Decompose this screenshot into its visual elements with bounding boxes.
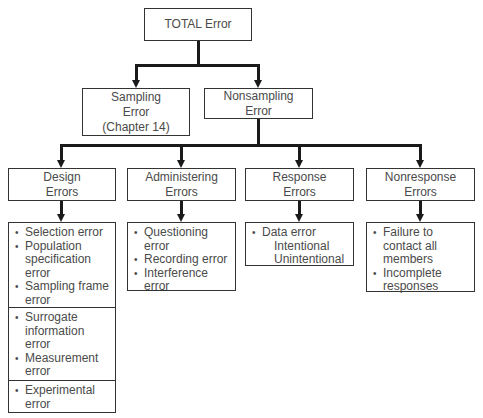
arrow-administering-detail-icon [177,214,185,222]
arrow-design-detail-icon [57,214,65,222]
nonresponse-section: Failure to contact all members Incomplet… [367,223,474,297]
sampling-line-2: Error [123,105,150,120]
list-item: Selection error [15,226,111,240]
list-item: Interference error [134,267,231,294]
total-error-box: TOTAL Error [144,8,252,41]
arrow-to-response-icon [295,160,303,168]
arrow-to-nonresponse-icon [416,160,424,168]
arrow-nonresponse-detail-icon [416,214,424,222]
connector-total-down [197,40,200,65]
response-errors-detail: Data error Intentional Unintentional [245,222,354,266]
nonresponse-errors-box: Nonresponse Errors [366,168,475,201]
design-section-1: Selection error Population specification… [9,223,115,308]
list-item: Data error [252,226,349,240]
list-item: Questioning error [134,226,231,253]
sampling-line-1: Sampling [111,90,161,105]
sub-item: Intentional [252,240,349,254]
connector-to-sampling [135,64,138,80]
response-section: Data error Intentional Unintentional [246,223,353,270]
arrow-to-design-icon [57,160,65,168]
nonresponse-line-1: Nonresponse [385,170,456,185]
sampling-error-box: Sampling Error (Chapter 14) [82,88,190,136]
connector-administering-detail [180,200,183,214]
connector-level1-bar [135,64,260,67]
nonresponse-line-2: Errors [404,185,437,200]
administering-errors-box: Administering Errors [127,168,236,201]
nonsampling-error-box: Nonsampling Error [204,88,313,119]
administering-errors-detail: Questioning error Recording error Interf… [127,222,236,291]
design-section-2: Surrogate information error Measurement … [9,308,115,381]
list-item: Recording error [134,253,231,267]
nonresponse-errors-detail: Failure to contact all members Incomplet… [366,222,475,292]
response-line-1: Response [272,170,326,185]
design-errors-box: Design Errors [8,168,116,201]
connector-to-administering [180,144,183,160]
connector-to-response [298,144,301,160]
administering-line-2: Errors [165,185,198,200]
connector-to-nonresponse [419,144,422,160]
connector-to-nonsampling [257,64,260,80]
sampling-line-3: (Chapter 14) [102,120,169,135]
connector-design-detail [60,200,63,214]
connector-response-detail [298,200,301,214]
response-line-2: Errors [283,185,316,200]
response-errors-box: Response Errors [245,168,354,201]
arrow-to-sampling-icon [132,80,140,88]
administering-section: Questioning error Recording error Interf… [128,223,235,297]
arrow-to-administering-icon [177,160,185,168]
nonsampling-line-1: Nonsampling [223,89,293,104]
list-item: Population specification error [15,240,111,281]
connector-nonsampling-down [257,118,260,146]
list-item: Experimental error [15,384,111,411]
list-item: Measurement error [15,352,111,379]
connector-nonresponse-detail [419,200,422,214]
list-item: Failure to contact all members [373,226,470,267]
administering-line-1: Administering [145,170,218,185]
list-item: Sampling frame error [15,280,111,307]
connector-to-design [60,144,63,160]
arrow-response-detail-icon [295,214,303,222]
design-line-2: Errors [46,185,79,200]
list-item: Incomplete responses [373,267,470,294]
design-errors-detail: Selection error Population specification… [8,222,116,413]
design-line-1: Design [43,170,80,185]
design-section-3: Experimental error [9,381,115,414]
arrow-to-nonsampling-icon [254,80,262,88]
nonsampling-line-2: Error [245,104,272,119]
list-item: Surrogate information error [15,311,111,352]
connector-level2-bar [60,144,422,147]
total-error-label: TOTAL Error [164,17,231,32]
sub-item: Unintentional [252,253,349,267]
